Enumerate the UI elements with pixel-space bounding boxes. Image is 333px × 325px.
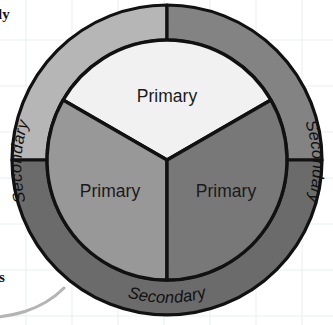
ring-diagram: Secondary Secondary Secondary Primary Pr…	[0, 0, 333, 325]
fragment-top-left-text: ly	[0, 6, 10, 23]
diagram-canvas: Secondary Secondary Secondary Primary Pr…	[0, 0, 333, 325]
fragment-bottom-left-text: s	[0, 269, 5, 286]
primary-left-label: Primary	[80, 181, 141, 201]
callout-leader-line	[0, 288, 64, 318]
primary-right-label: Primary	[196, 181, 257, 201]
primary-pie-group	[47, 40, 287, 280]
primary-top-label: Primary	[137, 86, 198, 106]
